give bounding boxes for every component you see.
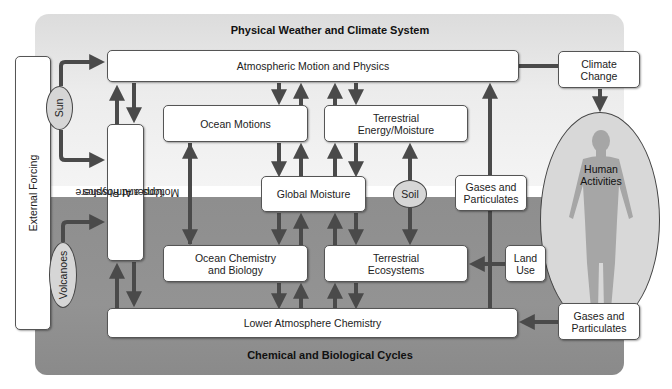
sun-to-atmosphere-arrow [61, 62, 98, 86]
external-forcing-box: External Forcing [15, 56, 51, 330]
terrestrial-ecosystems-line-1: Terrestrial [373, 252, 419, 264]
volcanoes-arrow [63, 222, 98, 242]
terrestrial-energy-line-1: Terrestrial [373, 112, 419, 124]
global-moisture-label: Global Moisture [277, 188, 351, 200]
global-moisture-box: Global Moisture [261, 176, 366, 212]
climate-change-line-1: Climate [581, 58, 617, 70]
sun-label: Sun [54, 99, 66, 118]
gases-lower-line-1: Gases and [574, 310, 625, 322]
sun-to-upper-atmosphere-arrow [61, 130, 98, 160]
lower-atmosphere-label: Lower Atmosphere Chemistry [244, 317, 382, 329]
upper-atmosphere-line-2: Motions and Physics [83, 187, 179, 199]
sun-node: Sun [46, 86, 73, 130]
volcanoes-node: Volcanoes [49, 242, 77, 308]
land-use-line-2: Use [516, 264, 535, 276]
terrestrial-energy-line-2: Energy/Moisture [358, 124, 434, 136]
human-activities-node: Human Activities [540, 112, 660, 328]
gases-lower-line-2: Particulates [572, 322, 627, 334]
lower-atmosphere-box: Lower Atmosphere Chemistry [107, 308, 518, 338]
gases-upper-line-1: Gases and [466, 181, 517, 193]
soil-label: Soil [401, 188, 419, 200]
upper-atmosphere-box: Upper Atmosphere Motions and Physics [107, 124, 144, 261]
volcanoes-label: Volcanoes [57, 251, 69, 299]
land-use-line-1: Land [514, 252, 537, 264]
ocean-motions-box: Ocean Motions [163, 105, 308, 142]
gases-particulates-lower-box: Gases and Particulates [558, 303, 640, 340]
ocean-chemistry-line-2: and Biology [208, 264, 263, 276]
terrestrial-ecosystems-line-2: Ecosystems [368, 264, 425, 276]
terrestrial-ecosystems-box: Terrestrial Ecosystems [324, 245, 468, 282]
ocean-motions-label: Ocean Motions [200, 118, 271, 130]
external-forcing-label: External Forcing [27, 155, 39, 231]
atmospheric-motion-box: Atmospheric Motion and Physics [107, 50, 519, 82]
human-figure-icon [541, 113, 661, 329]
land-use-box: Land Use [505, 245, 546, 282]
ocean-chemistry-line-1: Ocean Chemistry [195, 252, 276, 264]
climate-change-line-2: Change [581, 70, 618, 82]
gases-upper-line-2: Particulates [464, 193, 519, 205]
human-activities-line-2: Activities [571, 175, 631, 187]
terrestrial-energy-box: Terrestrial Energy/Moisture [324, 105, 468, 142]
soil-node: Soil [393, 180, 427, 208]
upper-atmosphere-label: Upper Atmosphere Motions and Physics [114, 144, 138, 240]
human-activities-line-1: Human [571, 163, 631, 175]
climate-change-box: Climate Change [558, 51, 640, 88]
ocean-chemistry-box: Ocean Chemistry and Biology [163, 245, 308, 282]
atmospheric-motion-label: Atmospheric Motion and Physics [237, 60, 389, 72]
human-activities-label: Human Activities [571, 163, 631, 187]
gases-particulates-upper-box: Gases and Particulates [455, 175, 527, 211]
